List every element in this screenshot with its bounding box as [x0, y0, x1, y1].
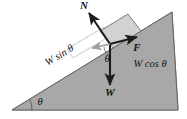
weight-angle-label: θ: [104, 53, 109, 64]
normal-force-label: N: [79, 0, 89, 11]
weight-force-label: W: [105, 86, 116, 98]
figure-container: N F W W sin θ W cos θ θ θ: [0, 0, 187, 119]
weight-perpendicular-component-label: W cos θ: [133, 58, 166, 69]
incline-base-angle-label: θ: [37, 96, 42, 107]
friction-force-label: F: [132, 41, 141, 53]
inclined-plane-diagram: N F W W sin θ W cos θ θ θ: [0, 0, 187, 119]
